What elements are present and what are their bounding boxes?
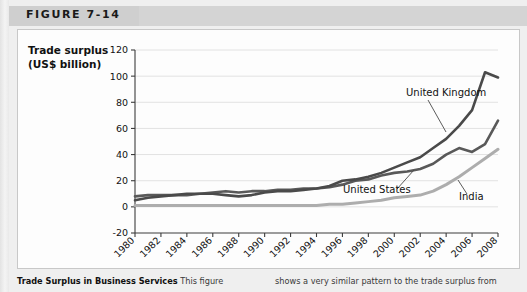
svg-text:20: 20 <box>116 175 128 186</box>
svg-text:2000: 2000 <box>371 235 396 260</box>
svg-text:1984: 1984 <box>163 235 188 260</box>
svg-text:1994: 1994 <box>293 235 318 260</box>
svg-text:United States: United States <box>343 184 411 195</box>
caption-column-right: shows a very similar pattern to the trad… <box>275 276 519 287</box>
svg-text:2004: 2004 <box>423 235 448 260</box>
caption-right-text: shows a very similar pattern to the trad… <box>275 276 497 286</box>
svg-text:1990: 1990 <box>241 235 266 260</box>
svg-text:40: 40 <box>116 149 128 160</box>
svg-text:India: India <box>459 191 484 202</box>
svg-text:0: 0 <box>122 201 128 212</box>
svg-text:1982: 1982 <box>137 235 162 260</box>
caption-title: Trade Surplus in Business Services <box>17 276 178 286</box>
svg-text:60: 60 <box>116 123 128 134</box>
svg-text:100: 100 <box>110 71 128 82</box>
figure-label: FIGURE 7-14 <box>26 8 121 21</box>
svg-text:80: 80 <box>116 97 128 108</box>
svg-text:2006: 2006 <box>449 235 474 260</box>
page-left-edge <box>0 0 9 292</box>
svg-text:120: 120 <box>110 44 128 55</box>
figure-panel: Trade surplus (US$ billion) -20020406080… <box>17 29 520 269</box>
svg-text:2008: 2008 <box>475 235 500 260</box>
svg-text:2002: 2002 <box>397 235 422 260</box>
svg-text:1986: 1986 <box>189 235 214 260</box>
svg-text:1996: 1996 <box>319 235 344 260</box>
line-chart: -200204060801001201980198219841986198819… <box>18 30 519 268</box>
caption-left-text: This figure <box>180 276 223 286</box>
caption-column-left: Trade Surplus in Business Services This … <box>17 276 261 287</box>
svg-text:1988: 1988 <box>215 235 240 260</box>
svg-text:United Kingdom: United Kingdom <box>406 87 486 98</box>
svg-text:1998: 1998 <box>345 235 370 260</box>
figure-caption: Trade Surplus in Business Services This … <box>17 276 520 287</box>
svg-text:1992: 1992 <box>267 235 292 260</box>
